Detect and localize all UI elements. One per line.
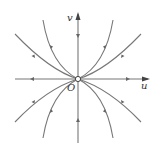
trajectory xyxy=(78,20,113,79)
trajectory xyxy=(43,20,78,79)
u-axis-label: u xyxy=(141,80,147,91)
phase-diagram xyxy=(0,0,158,146)
v-axis-arrow-icon xyxy=(76,12,81,20)
v-axis-label: v xyxy=(67,12,73,23)
phase-portrait: v u O xyxy=(0,0,158,146)
origin-point xyxy=(75,76,80,81)
origin-label: O xyxy=(67,82,75,93)
trajectory xyxy=(78,79,113,138)
